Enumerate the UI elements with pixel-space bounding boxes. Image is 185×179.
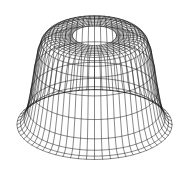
meridian-line bbox=[49, 44, 82, 153]
meridian-line bbox=[63, 45, 86, 157]
meridian-line bbox=[116, 37, 171, 129]
meridian-line bbox=[17, 37, 72, 129]
meridian-line bbox=[103, 45, 126, 157]
page bbox=[0, 0, 185, 179]
meridian-line bbox=[71, 45, 88, 158]
meridian-line bbox=[101, 45, 118, 158]
meridian-line bbox=[114, 41, 162, 142]
surface-plot-canvas bbox=[0, 0, 185, 179]
wireframe-surface-figure bbox=[0, 0, 185, 179]
meridian-line bbox=[107, 44, 140, 153]
meridian-line bbox=[27, 41, 75, 142]
mesh-lines bbox=[17, 16, 172, 160]
